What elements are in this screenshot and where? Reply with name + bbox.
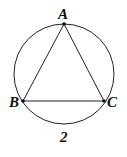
label-b: B — [8, 94, 19, 110]
circumcircle — [14, 24, 114, 124]
label-a: A — [57, 6, 68, 22]
caption-label: 2 — [59, 129, 68, 145]
triangle-abc — [23, 24, 104, 101]
label-c: C — [107, 94, 118, 110]
point-c — [102, 99, 106, 103]
point-b — [21, 99, 25, 103]
point-a — [62, 22, 66, 26]
diagram-canvas: A B C 2 — [0, 0, 127, 157]
